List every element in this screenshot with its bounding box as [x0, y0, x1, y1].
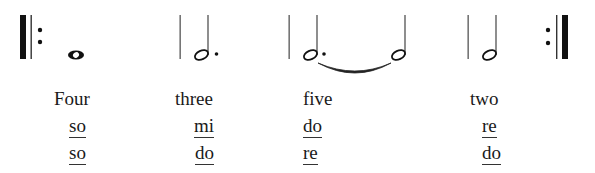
start-repeat-icon — [20, 15, 42, 59]
dotted-half-note-icon — [302, 15, 325, 62]
dotted-half-note-icon — [193, 15, 218, 62]
barline — [468, 15, 469, 59]
solfege-row1-measure-2: mi — [194, 116, 214, 138]
tie-icon — [318, 63, 391, 73]
barline — [180, 15, 181, 59]
solfege-row2-measure-1: so — [69, 143, 86, 165]
count-word-measure-4: two — [470, 89, 499, 108]
count-word-measure-3: five — [303, 89, 333, 108]
whole-note-icon — [68, 50, 84, 59]
solfege-row2-measure-3: re — [303, 143, 318, 165]
rhythm-notation-staff — [0, 0, 595, 173]
half-note-icon — [481, 15, 497, 62]
solfege-row1-measure-3: do — [303, 116, 322, 138]
count-word-measure-2: three — [175, 89, 213, 108]
half-note-icon — [390, 15, 406, 62]
barline — [289, 15, 290, 59]
end-repeat-icon — [546, 15, 568, 59]
count-word-measure-1: Four — [54, 89, 90, 108]
solfege-row2-measure-2: do — [195, 143, 214, 165]
solfege-row2-measure-4: do — [482, 143, 501, 165]
solfege-row1-measure-1: so — [69, 116, 86, 138]
solfege-row1-measure-4: re — [482, 116, 497, 138]
